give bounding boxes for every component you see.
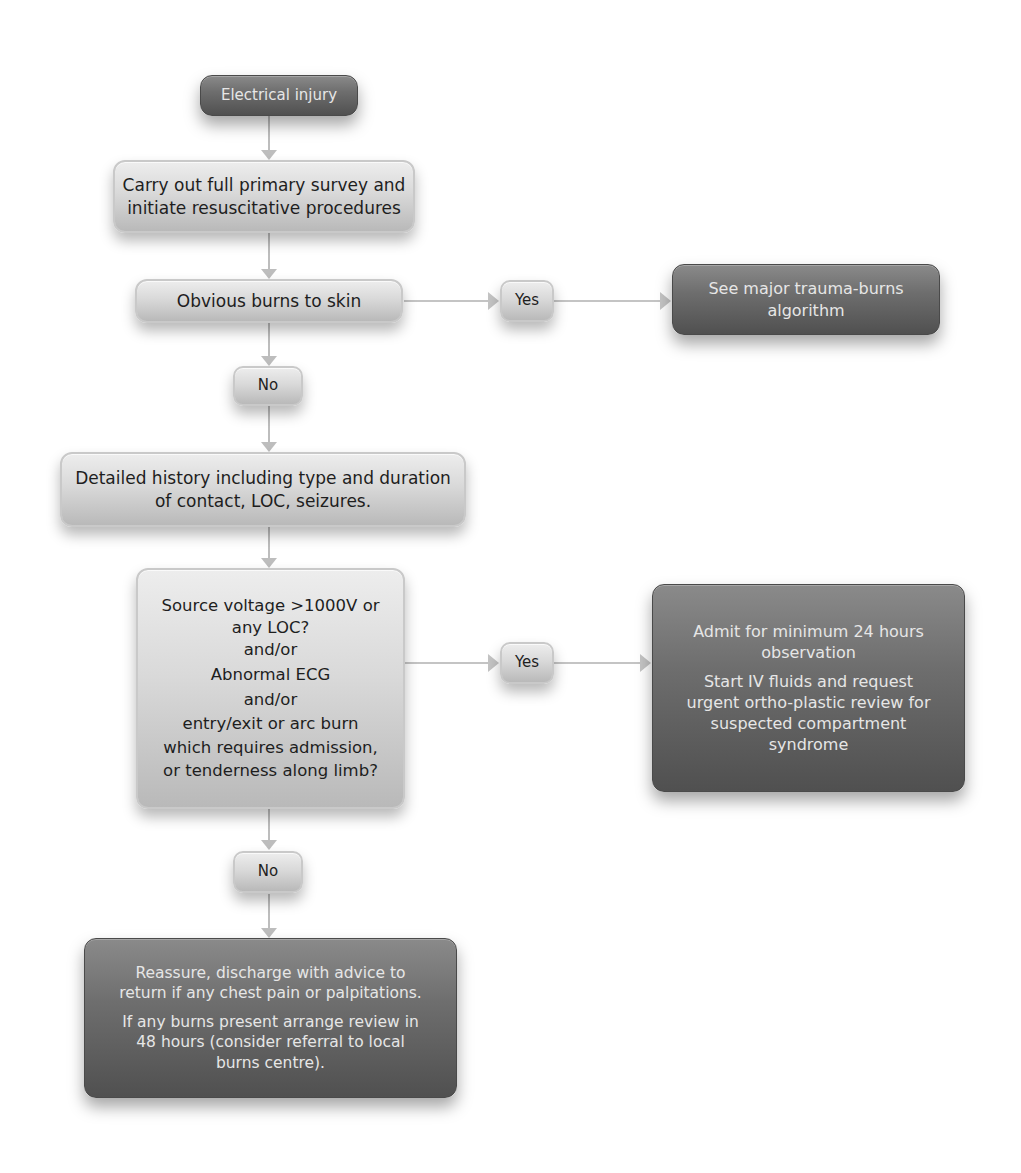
node-text-line: Source voltage >1000V or (161, 595, 379, 616)
node-text-line: any LOC? (232, 617, 309, 638)
node-major-trauma-burns: See major trauma-burns algorithm (672, 264, 940, 335)
node-text-line: burns centre). (122, 1053, 419, 1073)
arrow-head (660, 292, 671, 310)
node-text-line: and/or (244, 688, 297, 713)
connector-risk-to-yes (405, 662, 490, 664)
connector-yes-to-trauma (554, 300, 660, 302)
node-text-line: observation (693, 642, 924, 663)
arrow-head (488, 292, 499, 310)
node-text-line: urgent ortho-plastic review for (687, 692, 931, 713)
node-burns-yes: Yes (500, 280, 554, 322)
node-text: No (258, 862, 278, 882)
node-text-line: 48 hours (consider referral to local (122, 1032, 419, 1052)
node-discharge: Reassure, discharge with advice to retur… (84, 938, 457, 1098)
node-text-line: syndrome (687, 734, 931, 755)
node-text-line: return if any chest pain or palpitations… (119, 983, 422, 1003)
node-text-line: or tenderness along limb? (163, 759, 378, 782)
connector-burns-to-yes (404, 300, 490, 302)
node-text-line: Reassure, discharge with advice to (119, 963, 422, 983)
node-text-line: entry/exit or arc burn (183, 712, 359, 735)
node-text-line: and/or (244, 638, 297, 663)
node-electrical-injury: Electrical injury (200, 75, 358, 116)
node-text-line: which requires admission, (163, 736, 378, 759)
discharge-paragraph-1: Reassure, discharge with advice to retur… (119, 963, 422, 1004)
node-risk-yes: Yes (500, 642, 554, 684)
node-risk-no: No (233, 851, 303, 893)
node-text-line: See major trauma-burns (708, 278, 903, 299)
node-text-line: Abnormal ECG (211, 663, 331, 688)
arrow-head (261, 840, 277, 850)
node-text-line: of contact, LOC, seizures. (155, 490, 371, 512)
node-burns-no: No (233, 366, 303, 406)
connector-no-to-history (268, 406, 270, 444)
node-text-line: Carry out full primary survey and (123, 174, 406, 196)
admit-paragraph-1: Admit for minimum 24 hours observation (693, 621, 924, 663)
arrow-head (261, 558, 277, 568)
node-text-line: Detailed history including type and dura… (75, 467, 451, 489)
node-text: Yes (515, 653, 539, 673)
node-burns-question: Obvious burns to skin (135, 279, 403, 323)
node-detailed-history: Detailed history including type and dura… (60, 452, 466, 527)
connector-history-to-risk (268, 527, 270, 560)
node-text-line: algorithm (767, 300, 844, 321)
arrow-head (488, 654, 499, 672)
node-admit: Admit for minimum 24 hours observation S… (652, 584, 965, 792)
arrow-head (261, 269, 277, 279)
arrow-head (640, 654, 651, 672)
discharge-paragraph-2: If any burns present arrange review in 4… (122, 1012, 419, 1073)
connector-no-to-discharge (268, 894, 270, 930)
node-risk-question: Source voltage >1000V or any LOC? and/or… (136, 568, 405, 809)
arrow-head (261, 442, 277, 452)
admit-paragraph-2: Start IV fluids and request urgent ortho… (687, 671, 931, 755)
connector-survey-to-burns (268, 233, 270, 271)
node-primary-survey: Carry out full primary survey and initia… (113, 160, 415, 233)
connector-yes-to-admit (554, 662, 640, 664)
node-text-line: If any burns present arrange review in (122, 1012, 419, 1032)
node-text: No (258, 376, 278, 396)
node-text-line: initiate resuscitative procedures (127, 197, 401, 219)
connector-risk-to-no (268, 809, 270, 841)
node-text: Electrical injury (221, 86, 337, 106)
node-text-line: Start IV fluids and request (687, 671, 931, 692)
node-text-line: suspected compartment (687, 713, 931, 734)
connector-start-to-survey (268, 116, 270, 152)
arrow-head (261, 356, 277, 366)
arrow-head (261, 150, 277, 160)
node-text: Obvious burns to skin (177, 290, 361, 312)
arrow-head (261, 928, 277, 938)
node-text: Yes (515, 291, 539, 311)
node-text-line: Admit for minimum 24 hours (693, 621, 924, 642)
connector-burns-to-no (268, 323, 270, 357)
